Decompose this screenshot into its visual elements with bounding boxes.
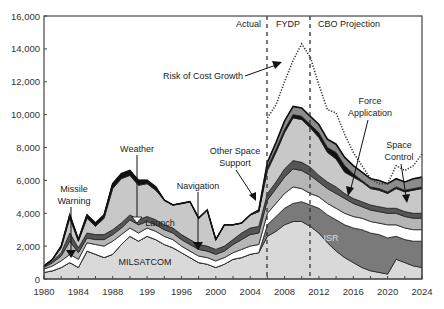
label-other-support-2: Support bbox=[219, 158, 251, 168]
y-tick-label: 0 bbox=[35, 274, 40, 285]
label-weather: Weather bbox=[120, 144, 154, 154]
x-tick-label: 2012 bbox=[308, 286, 329, 297]
arrow-other-support bbox=[236, 170, 253, 196]
label-navigation: Navigation bbox=[177, 181, 220, 191]
x-tick-label: 2008 bbox=[274, 286, 295, 297]
label-control-2: Control bbox=[384, 152, 413, 162]
label-control-1: Space bbox=[386, 140, 412, 150]
x-tick-label: 2004 bbox=[240, 286, 261, 297]
label-actual: Actual bbox=[236, 19, 261, 29]
label-launch: Launch bbox=[145, 218, 175, 228]
y-tick-label: 8,000 bbox=[16, 142, 40, 153]
x-tick-label: 1996 bbox=[171, 286, 192, 297]
label-milsatcom: MILSATCOM bbox=[119, 257, 172, 267]
y-axis: 02,0004,0006,0008,00010,00012,00014,0001… bbox=[11, 11, 47, 285]
label-cbo-projection: CBO Projection bbox=[318, 19, 380, 29]
stacked-area-chart: 02,0004,0006,0008,00010,00012,00014,0001… bbox=[0, 0, 444, 309]
y-tick-label: 16,000 bbox=[11, 11, 40, 22]
y-tick-label: 4,000 bbox=[16, 208, 40, 219]
label-missile-2: Warning bbox=[57, 196, 90, 206]
label-isr: ISR bbox=[323, 233, 339, 243]
y-tick-label: 14,000 bbox=[11, 43, 40, 54]
arrowhead-other-support-icon bbox=[249, 192, 256, 201]
y-tick-label: 6,000 bbox=[16, 175, 40, 186]
label-force-1: Force bbox=[358, 96, 381, 106]
label-risk: Risk of Cost Growth bbox=[163, 71, 243, 81]
x-tick-label: 2016 bbox=[343, 286, 364, 297]
y-tick-label: 2,000 bbox=[16, 241, 40, 252]
arrowhead-risk-icon bbox=[272, 61, 282, 69]
y-tick-label: 12,000 bbox=[11, 76, 40, 87]
x-tick-label: 1984 bbox=[68, 286, 89, 297]
arrow-risk bbox=[245, 65, 276, 76]
y-tick-label: 10,000 bbox=[11, 109, 40, 120]
label-other-support-1: Other Space bbox=[210, 146, 261, 156]
label-force-2: Application bbox=[348, 108, 392, 118]
x-tick-label: 199 bbox=[139, 286, 155, 297]
x-tick-label: 2020 bbox=[377, 286, 398, 297]
x-tick-label: 2024 bbox=[411, 286, 432, 297]
x-tick-label: 1980 bbox=[33, 286, 54, 297]
label-fydp: FYDP bbox=[276, 19, 300, 29]
label-missile-1: Missile bbox=[60, 184, 88, 194]
x-tick-label: 2000 bbox=[205, 286, 226, 297]
x-tick-label: 1988 bbox=[102, 286, 123, 297]
